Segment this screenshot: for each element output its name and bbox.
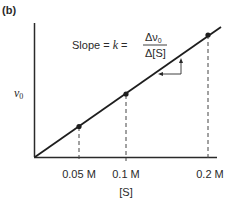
slope-numerator: Δν0	[145, 31, 162, 44]
chart-canvas: (b) Slope = k = Δν0 Δ[S] ν0 0.05 M 0.1 M…	[0, 0, 235, 208]
y-axis-label: ν0	[14, 86, 23, 101]
x-axis-label: [S]	[119, 186, 132, 198]
data-point	[76, 124, 81, 129]
data-line	[35, 27, 221, 157]
data-point	[123, 91, 128, 96]
arrow-left-icon	[158, 72, 163, 76]
slope-denominator: Δ[S]	[145, 47, 166, 59]
arrow-up-icon	[179, 58, 183, 63]
data-point	[205, 32, 210, 37]
x-tick-02: 0.2 M	[196, 168, 224, 180]
panel-label: (b)	[2, 4, 16, 16]
x-tick-01: 0.1 M	[112, 168, 140, 180]
slope-text: Slope = k =	[72, 38, 127, 52]
x-tick-005: 0.05 M	[62, 168, 96, 180]
